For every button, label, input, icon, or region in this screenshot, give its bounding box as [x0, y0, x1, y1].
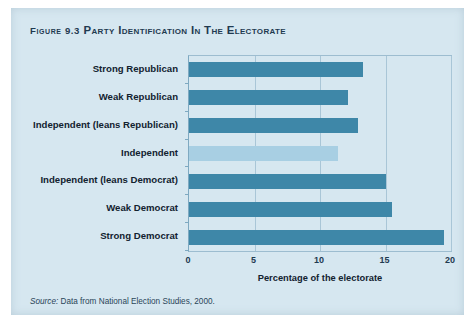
category-axis-labels: Strong RepublicanWeak RepublicanIndepend… — [21, 55, 184, 252]
category-label-1: Weak Republican — [99, 83, 178, 111]
figure-card: Figure 9.3 Party Identification in the E… — [11, 8, 464, 315]
category-label-3: Independent — [121, 139, 178, 167]
x-tick-label-10: 10 — [314, 255, 324, 265]
x-axis-tick-labels: 05101520 — [188, 255, 452, 269]
bar-0 — [189, 62, 363, 77]
chart-plot-area — [188, 55, 452, 252]
bar-4 — [189, 174, 386, 189]
bar-row — [189, 112, 451, 140]
gridline-x-20 — [451, 56, 452, 251]
source-note: Source: Data from National Election Stud… — [30, 297, 215, 306]
source-label: Source: — [30, 297, 58, 306]
x-tick-label-20: 20 — [445, 255, 455, 265]
bar-row — [189, 195, 451, 223]
bar-row — [189, 167, 451, 195]
bar-1 — [189, 90, 348, 105]
category-label-0: Strong Republican — [93, 55, 178, 83]
bar-row — [189, 140, 451, 168]
x-tick-label-15: 15 — [379, 255, 389, 265]
bar-row — [189, 223, 451, 251]
category-label-6: Strong Democrat — [100, 222, 178, 250]
bar-6 — [189, 230, 444, 245]
source-text: Data from National Election Studies, 200… — [58, 297, 215, 306]
figure-number-label: Figure 9.3 — [30, 25, 80, 36]
bar-5 — [189, 202, 392, 217]
x-tick-label-5: 5 — [251, 255, 256, 265]
y-tick-mark — [185, 250, 189, 251]
bar-row — [189, 84, 451, 112]
category-label-2: Independent (leans Republican) — [33, 111, 178, 139]
x-axis-title: Percentage of the electorate — [188, 273, 452, 283]
bar-3 — [189, 146, 338, 161]
category-label-4: Independent (leans Democrat) — [40, 166, 178, 194]
figure-title-text: Party Identification in the Electorate — [84, 24, 286, 36]
figure-title: Figure 9.3 Party Identification in the E… — [30, 24, 286, 36]
bar-row — [189, 56, 451, 84]
x-tick-label-0: 0 — [185, 255, 190, 265]
bar-2 — [189, 118, 358, 133]
category-label-5: Weak Democrat — [106, 194, 178, 222]
